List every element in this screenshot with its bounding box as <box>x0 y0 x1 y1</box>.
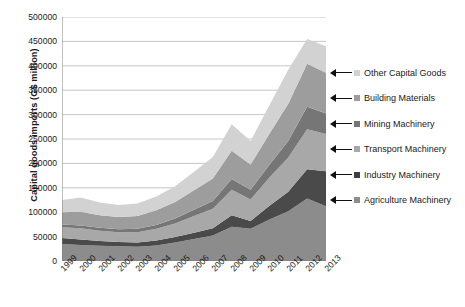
x-tick-label: 2001 <box>97 253 117 273</box>
legend-label: Building Materials <box>364 93 435 103</box>
x-tick-label: 2012 <box>304 253 324 273</box>
leader-arrow-icon <box>330 170 352 179</box>
legend-item[interactable]: Agriculture Machinery <box>330 188 465 214</box>
x-tick-label: 2005 <box>172 253 192 273</box>
legend-label: Agriculture Machinery <box>364 195 451 205</box>
legend-swatch <box>354 197 360 203</box>
legend-label: Mining Machinery <box>364 119 435 129</box>
x-tick-label: 2009 <box>248 253 268 273</box>
x-tick-label: 2006 <box>191 253 211 273</box>
leader-arrow-icon <box>330 196 352 205</box>
legend-swatch <box>354 121 360 127</box>
leader-arrow-icon <box>330 94 352 103</box>
leader-arrow-icon <box>330 68 352 77</box>
legend-item[interactable]: Mining Machinery <box>330 111 465 137</box>
legend-label: Other Capital Goods <box>364 68 446 78</box>
legend-swatch <box>354 146 360 152</box>
legend-label: Industry Machinery <box>364 170 440 180</box>
x-tick-label: 2004 <box>153 253 173 273</box>
leader-arrow-icon <box>330 145 352 154</box>
x-tick-label: 2007 <box>210 253 230 273</box>
x-tick-label: 2008 <box>229 253 249 273</box>
x-tick-label: 2003 <box>134 253 154 273</box>
legend-item[interactable]: Building Materials <box>330 86 465 112</box>
x-tick-label: 2002 <box>116 253 136 273</box>
chart-legend: Other Capital GoodsBuilding MaterialsMin… <box>330 60 465 213</box>
x-tick-label: 1999 <box>59 253 79 273</box>
legend-swatch <box>354 95 360 101</box>
legend-label: Transport Machinery <box>364 144 446 154</box>
stacked-area-chart: Capital goods imports (G$ million) 05000… <box>0 0 465 307</box>
x-tick-label: 2010 <box>266 253 286 273</box>
x-tick-label: 2000 <box>78 253 98 273</box>
legend-item[interactable]: Transport Machinery <box>330 137 465 163</box>
legend-item[interactable]: Industry Machinery <box>330 162 465 188</box>
legend-swatch <box>354 172 360 178</box>
legend-swatch <box>354 70 360 76</box>
legend-item[interactable]: Other Capital Goods <box>330 60 465 86</box>
x-tick-label: 2013 <box>323 253 343 273</box>
x-tick-label: 2011 <box>285 254 304 273</box>
leader-arrow-icon <box>330 119 352 128</box>
